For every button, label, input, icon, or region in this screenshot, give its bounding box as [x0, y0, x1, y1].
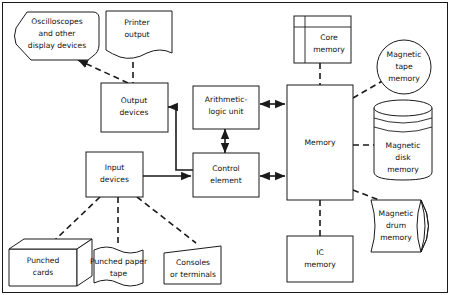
oscilloscopes-label-line-3: display devices: [28, 41, 86, 50]
punched-paper-tape-label-line-2: tape: [110, 269, 127, 278]
node-magnetic-drum-memory: Magnetic drum memory: [371, 200, 429, 252]
punched-paper-tape-shape: [94, 247, 143, 286]
magnetic-drum-label-line-1: Magnetic: [379, 209, 414, 218]
printer-output-label-line-2: output: [124, 30, 149, 39]
control-element-label-line-2: element: [210, 176, 241, 185]
ic-memory-label-line-1: IC: [316, 248, 324, 257]
input-devices-label-line-1: Input: [105, 163, 125, 172]
node-oscilloscopes: Oscilloscopes and other display devices: [15, 12, 100, 60]
link-control-element-to-output-devices: [168, 107, 193, 170]
memory-label: Memory: [305, 138, 336, 147]
magnetic-drum-label-line-3: memory: [380, 233, 412, 242]
alu-label-line-2: logic unit: [209, 107, 244, 116]
punched-paper-tape-label-line-1: Punched paper: [90, 257, 148, 266]
punched-cards-label-line-2: cards: [33, 268, 54, 277]
magnetic-tape-label-line-1: Magnetic: [387, 50, 422, 59]
node-punched-cards: Punched cards: [9, 239, 92, 286]
consoles-label-line-1: Consoles: [176, 258, 210, 267]
control-element-label-line-1: Control: [212, 164, 239, 173]
magnetic-tape-label-line-3: memory: [388, 74, 420, 83]
node-magnetic-tape-memory: Magnetic tape memory: [377, 40, 431, 94]
node-core-memory: Core memory: [294, 16, 351, 63]
magnetic-disk-top-platter: [374, 100, 432, 116]
node-input-devices: Input devices: [86, 152, 143, 197]
core-memory-label-line-2: memory: [313, 45, 345, 54]
punched-cards-label-line-1: Punched: [27, 256, 60, 265]
consoles-label-line-2: or terminals: [170, 270, 216, 279]
node-output-devices: Output devices: [101, 83, 168, 132]
ic-memory-shape: [287, 236, 353, 282]
magnetic-tape-label-line-2: tape: [395, 62, 412, 71]
oscilloscopes-label-line-2: and other: [39, 29, 77, 38]
output-devices-label-line-2: devices: [120, 108, 149, 117]
printer-output-label-line-1: Printer: [124, 18, 150, 27]
node-printer-output: Printer output: [106, 11, 172, 58]
node-memory: Memory: [287, 85, 353, 200]
magnetic-disk-label-line-1: Magnetic: [386, 141, 421, 150]
node-arithmetic-logic-unit: Arithmetic- logic unit: [193, 86, 259, 129]
magnetic-disk-label-line-2: disk: [395, 153, 411, 162]
input-devices-label-line-2: devices: [100, 175, 129, 184]
link-punched-cards-to-input-devices: [55, 197, 100, 240]
node-ic-memory: IC memory: [287, 236, 353, 282]
node-consoles-or-terminals: Consoles or terminals: [164, 246, 221, 284]
diagram-svg: Oscilloscopes and other display devices …: [0, 0, 450, 295]
magnetic-disk-label-line-3: memory: [387, 165, 419, 174]
output-devices-label-line-1: Output: [121, 96, 147, 105]
link-consoles-to-input-devices: [137, 197, 196, 243]
oscilloscopes-label-line-1: Oscilloscopes: [31, 17, 82, 26]
node-punched-paper-tape: Punched paper tape: [90, 247, 148, 286]
magnetic-drum-label-line-2: drum: [386, 221, 406, 230]
control-element-shape: [193, 153, 259, 197]
link-memory-to-magnetic-tape: [353, 80, 384, 98]
block-diagram-canvas: Oscilloscopes and other display devices …: [0, 0, 450, 295]
node-magnetic-disk-memory: Magnetic disk memory: [374, 100, 432, 180]
alu-label-line-1: Arithmetic-: [205, 95, 248, 104]
link-output-devices-to-oscilloscopes: [78, 60, 128, 83]
node-control-element: Control element: [193, 153, 259, 197]
core-memory-label-line-1: Core: [320, 33, 338, 42]
ic-memory-label-line-2: memory: [304, 260, 336, 269]
